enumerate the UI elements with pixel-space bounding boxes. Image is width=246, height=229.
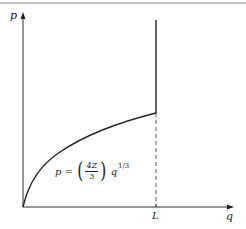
x-axis-arrow-icon	[227, 205, 234, 210]
formula-lhs: p	[55, 166, 61, 177]
diagram-canvas	[0, 0, 246, 229]
formula-equals: =	[64, 166, 72, 177]
curve-formula: p = ( 4Z 3 ) q 1/3	[55, 160, 129, 182]
y-axis-arrow-icon	[21, 12, 26, 19]
formula-denominator: 3	[89, 172, 94, 181]
formula-fraction: 4Z 3	[85, 162, 98, 181]
formula-open-paren: (	[77, 160, 83, 182]
formula-variable: q	[111, 166, 117, 177]
formula-exponent: 1/3	[118, 162, 129, 170]
x-axis-label: q	[226, 211, 233, 222]
y-axis-label: p	[10, 10, 17, 21]
formula-close-paren: )	[100, 160, 106, 182]
formula-numerator: 4Z	[85, 162, 98, 172]
diagram: p q L p = ( 4Z 3 ) q 1/3	[0, 0, 246, 229]
l-marker-label: L	[152, 211, 159, 221]
